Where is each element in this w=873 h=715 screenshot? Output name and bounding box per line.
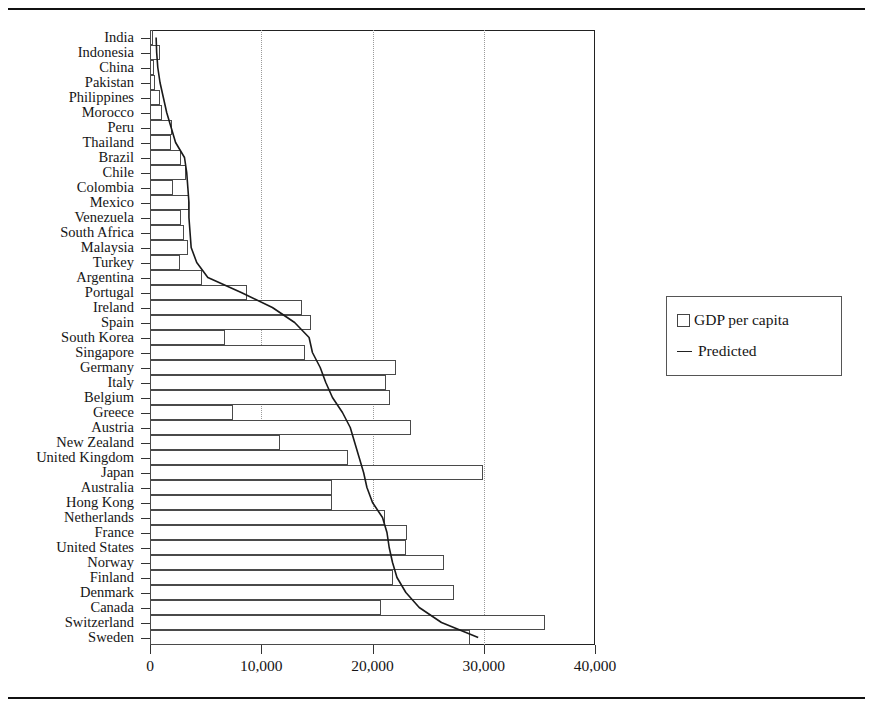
category-tick xyxy=(141,518,150,519)
category-label: United Kingdom xyxy=(36,450,134,465)
category-label: Canada xyxy=(91,600,134,615)
category-tick xyxy=(141,638,150,639)
legend-label-gdp-per-capita: GDP per capita xyxy=(694,311,789,329)
category-tick xyxy=(141,488,150,489)
category-tick xyxy=(141,503,150,504)
plot-area xyxy=(150,30,595,645)
category-tick xyxy=(141,233,150,234)
category-label: Thailand xyxy=(82,135,134,150)
category-tick xyxy=(141,53,150,54)
category-tick xyxy=(141,593,150,594)
category-label: Australia xyxy=(81,480,134,495)
category-label: Venezuela xyxy=(74,210,134,225)
category-label: Netherlands xyxy=(64,510,134,525)
category-label: South Korea xyxy=(61,330,134,345)
category-label: Norway xyxy=(87,555,134,570)
value-tick-label: 10,000 xyxy=(240,657,283,675)
category-label: South Africa xyxy=(60,225,134,240)
category-tick xyxy=(141,578,150,579)
value-tick xyxy=(595,645,596,654)
category-label: Belgium xyxy=(84,390,134,405)
category-label: Turkey xyxy=(93,255,134,270)
category-tick xyxy=(141,203,150,204)
category-tick xyxy=(141,218,150,219)
category-tick xyxy=(141,368,150,369)
value-tick xyxy=(373,645,374,654)
category-label: Spain xyxy=(101,315,134,330)
category-tick xyxy=(141,473,150,474)
category-label: Colombia xyxy=(77,180,134,195)
legend-bar-swatch-icon xyxy=(677,314,690,327)
category-label: India xyxy=(104,30,134,45)
category-label: Portugal xyxy=(85,285,134,300)
value-tick-label: 20,000 xyxy=(351,657,394,675)
category-label: Indonesia xyxy=(78,45,134,60)
category-label: Denmark xyxy=(80,585,134,600)
category-label: Peru xyxy=(107,120,134,135)
category-label: United States xyxy=(56,540,134,555)
category-tick xyxy=(141,443,150,444)
category-tick xyxy=(141,338,150,339)
category-label: Pakistan xyxy=(85,75,134,90)
category-tick xyxy=(141,563,150,564)
category-label: Argentina xyxy=(76,270,134,285)
category-tick xyxy=(141,83,150,84)
category-tick xyxy=(141,158,150,159)
value-axis: 010,00020,00030,00040,000 xyxy=(150,645,596,685)
value-tick-label: 0 xyxy=(146,657,154,675)
category-tick xyxy=(141,188,150,189)
category-label: France xyxy=(95,525,134,540)
category-label: Italy xyxy=(107,375,134,390)
category-tick xyxy=(141,278,150,279)
category-tick xyxy=(141,353,150,354)
category-label: Hong Kong xyxy=(66,495,134,510)
category-label: Ireland xyxy=(93,300,134,315)
category-tick xyxy=(141,38,150,39)
category-label: Mexico xyxy=(90,195,134,210)
category-label: Sweden xyxy=(88,630,134,645)
category-tick xyxy=(141,428,150,429)
chart-legend: GDP per capita Predicted xyxy=(666,296,842,376)
category-label: Switzerland xyxy=(65,615,134,630)
category-label: Singapore xyxy=(75,345,134,360)
category-tick xyxy=(141,323,150,324)
value-tick xyxy=(261,645,262,654)
legend-line-swatch-icon xyxy=(677,351,692,352)
category-label: Morocco xyxy=(82,105,134,120)
category-tick xyxy=(141,263,150,264)
category-label: Brazil xyxy=(99,150,134,165)
legend-item-predicted: Predicted xyxy=(677,342,757,360)
category-label: Japan xyxy=(101,465,134,480)
category-label: New Zealand xyxy=(56,435,134,450)
category-tick xyxy=(141,413,150,414)
category-tick xyxy=(141,458,150,459)
value-tick-label: 30,000 xyxy=(462,657,505,675)
category-tick xyxy=(141,308,150,309)
category-label: Austria xyxy=(91,420,134,435)
category-tick xyxy=(141,383,150,384)
category-tick xyxy=(141,398,150,399)
category-tick xyxy=(141,113,150,114)
category-tick xyxy=(141,128,150,129)
category-label: Germany xyxy=(80,360,134,375)
category-tick xyxy=(141,293,150,294)
category-tick xyxy=(141,173,150,174)
category-label: Philippines xyxy=(69,90,134,105)
gdp-per-capita-chart: IndiaIndonesiaChinaPakistanPhilippinesMo… xyxy=(0,0,873,715)
category-label: Malaysia xyxy=(81,240,134,255)
category-axis: IndiaIndonesiaChinaPakistanPhilippinesMo… xyxy=(0,30,150,645)
value-tick-label: 40,000 xyxy=(574,657,617,675)
category-label: Finland xyxy=(90,570,134,585)
predicted-line-series xyxy=(150,30,595,645)
category-tick xyxy=(141,68,150,69)
category-tick xyxy=(141,623,150,624)
category-tick xyxy=(141,98,150,99)
category-label: China xyxy=(99,60,134,75)
category-tick xyxy=(141,548,150,549)
category-label: Chile xyxy=(103,165,134,180)
value-tick xyxy=(484,645,485,654)
legend-label-predicted: Predicted xyxy=(698,342,757,360)
value-tick xyxy=(150,645,151,654)
category-tick xyxy=(141,248,150,249)
category-tick xyxy=(141,608,150,609)
